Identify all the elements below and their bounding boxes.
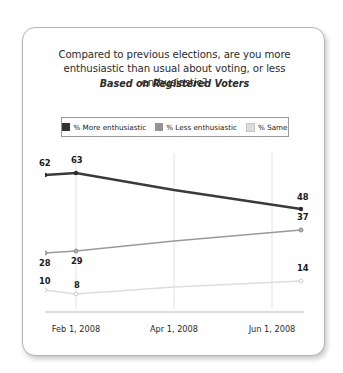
data-label-less-p1: 29	[71, 256, 83, 266]
data-label-less-p3: 37	[297, 212, 309, 222]
gridlines	[76, 153, 272, 309]
data-label-more-p3: 48	[297, 192, 309, 202]
legend-label: % Less enthusiastic	[166, 123, 237, 132]
chart-legend: % More enthusiastic % Less enthusiastic …	[61, 117, 289, 137]
x-tick-apr: Apr 1, 2008	[139, 324, 209, 334]
x-tick-feb: Feb 1, 2008	[41, 324, 111, 334]
x-tick-jun: Jun 1, 2008	[237, 324, 307, 334]
chart-plot-area: 62 63 48 28 29 37 10 8 14	[45, 153, 304, 313]
data-label-same-p3: 14	[297, 263, 309, 273]
data-label-same-p1: 8	[74, 280, 80, 290]
line-chart-svg	[45, 153, 304, 313]
legend-item-less[interactable]: % Less enthusiastic	[155, 123, 237, 132]
legend-item-same[interactable]: % Same	[246, 123, 288, 132]
legend-label: % Same	[258, 123, 288, 132]
chart-card: Compared to previous elections, are you …	[22, 27, 325, 356]
legend-swatch-icon	[246, 123, 255, 132]
legend-item-more[interactable]: % More enthusiastic	[62, 123, 146, 132]
chart-subtitle: Based on Registered Voters	[37, 78, 312, 89]
data-label-more-p1: 63	[71, 155, 83, 165]
data-label-more-p0: 62	[39, 158, 51, 168]
data-label-less-p0: 28	[39, 258, 51, 268]
legend-swatch-icon	[155, 123, 163, 131]
data-label-same-p0: 10	[39, 276, 51, 286]
legend-swatch-icon	[62, 123, 70, 131]
legend-label: % More enthusiastic	[73, 123, 146, 132]
